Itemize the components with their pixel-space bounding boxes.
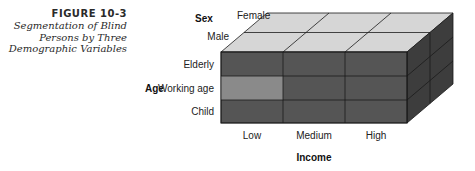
income-value-high: High — [366, 130, 387, 141]
sex-value-male: Male — [207, 31, 229, 42]
age-value-elderly: Elderly — [183, 59, 214, 70]
income-axis-label: Income — [296, 152, 331, 163]
age-value-working-age: Working age — [158, 83, 214, 94]
income-value-medium: Medium — [296, 130, 332, 141]
age-value-child: Child — [191, 106, 214, 117]
highlighted-segment-cell — [221, 76, 283, 100]
sex-axis-label: Sex — [195, 13, 213, 24]
sex-value-female: Female — [237, 10, 271, 21]
segmentation-cube-diagram: Sex Female Male Elderly Age Working age … — [0, 0, 475, 171]
income-value-low: Low — [243, 130, 262, 141]
